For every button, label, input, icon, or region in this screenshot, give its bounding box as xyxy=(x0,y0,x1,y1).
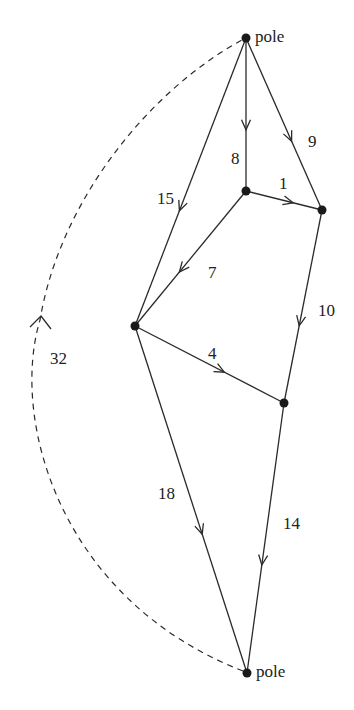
edge-weight-label: 7 xyxy=(208,264,217,281)
edge-weight-label: 10 xyxy=(318,302,335,319)
edge-weight-label: 1 xyxy=(279,175,288,192)
edge-left-to-pole-bottom xyxy=(135,326,247,673)
edge-weight-label: 14 xyxy=(283,515,300,532)
nodes-layer xyxy=(131,34,327,678)
edge-weight-label: 8 xyxy=(231,150,240,167)
node-mid-right xyxy=(280,399,289,408)
edge-inner-to-left xyxy=(135,191,246,326)
edge-pole-top-to-left xyxy=(135,38,246,326)
node-label-pole: pole xyxy=(256,663,285,680)
node-right xyxy=(318,206,327,215)
node-inner xyxy=(242,187,251,196)
edge-left-to-mid-right xyxy=(135,326,284,403)
edge-weight-label: 9 xyxy=(308,133,317,150)
edge-pole-top-to-inner xyxy=(242,38,251,191)
node-pole-bottom xyxy=(243,669,252,678)
node-left xyxy=(131,322,140,331)
edge-mid-right-to-pole-bottom xyxy=(247,403,284,673)
edge-right-to-mid-right xyxy=(284,210,322,403)
edge-weight-label: 15 xyxy=(157,190,174,207)
node-label-pole: pole xyxy=(255,28,284,45)
edge-weight-label: 4 xyxy=(208,345,217,362)
edge-weight-label: 32 xyxy=(50,350,67,367)
node-pole-top xyxy=(242,34,251,43)
edges-layer xyxy=(30,38,322,673)
edge-inner-to-right xyxy=(246,191,322,210)
edge-weight-label: 18 xyxy=(158,485,175,502)
